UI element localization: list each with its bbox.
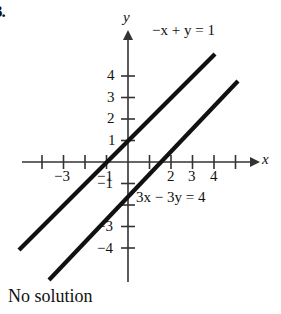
y-tick-label-4: 4	[107, 68, 115, 83]
y-tick-label-2: 2	[107, 111, 115, 126]
y-tick-label-neg3: −3	[97, 219, 113, 234]
figure-container: 3.	[0, 0, 281, 314]
equation-label-line1: −x + y = 1	[152, 23, 215, 38]
x-axis-label: x	[262, 152, 269, 167]
y-tick-label-neg1: −1	[97, 176, 113, 191]
x-tick-label-3: 3	[188, 169, 196, 184]
x-tick-label-4: 4	[210, 169, 218, 184]
equation-label-line2: 3x − 3y = 4	[136, 190, 205, 205]
y-axis-arrow-icon	[123, 30, 133, 40]
x-axis-arrow-icon	[250, 157, 260, 167]
x-tick-label-neg3: −3	[54, 169, 70, 184]
x-tick-label-2: 2	[167, 169, 175, 184]
y-tick-label-neg4: −4	[97, 241, 113, 256]
answer-caption: No solution	[8, 286, 93, 307]
y-tick-label-1: 1	[108, 133, 116, 148]
line-minus-x-plus-y-equals-1	[19, 54, 215, 250]
coordinate-plane-graph	[0, 0, 281, 314]
y-axis-label: y	[123, 10, 130, 25]
y-tick-label-3: 3	[107, 90, 115, 105]
